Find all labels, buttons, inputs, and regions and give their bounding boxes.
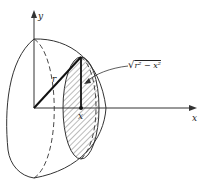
formula-body: r² − x² <box>134 61 161 70</box>
x-point <box>79 106 83 110</box>
formula-label: √r² − x² <box>128 60 161 70</box>
x-position-label: x <box>78 112 83 121</box>
hemisphere-diagram <box>0 0 207 186</box>
x-axis-label: x <box>192 114 197 123</box>
x-axis-arrow-icon <box>189 105 197 111</box>
y-axis-arrow-icon <box>31 10 37 18</box>
y-axis-label: y <box>38 12 43 21</box>
radius-label: r <box>52 75 56 84</box>
